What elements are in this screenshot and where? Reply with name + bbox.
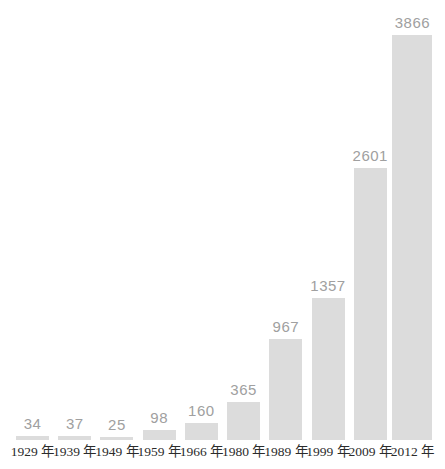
bar-value-label: 2601 bbox=[353, 148, 388, 163]
x-axis-label: 1939 年 bbox=[53, 440, 96, 469]
bar bbox=[227, 402, 260, 440]
bar bbox=[312, 298, 345, 440]
bar-value-label: 98 bbox=[150, 410, 168, 425]
x-axis-label: 1980 年 bbox=[222, 440, 265, 469]
bar-group: 365 1980 年 bbox=[223, 0, 264, 469]
x-axis-label: 1959 年 bbox=[137, 440, 180, 469]
bar-group: 160 1966 年 bbox=[181, 0, 222, 469]
bar-value-label: 25 bbox=[108, 417, 126, 432]
bar-chart: 34 1929 年 37 1939 年 25 1949 年 98 1959 年 … bbox=[0, 0, 445, 469]
bar bbox=[269, 339, 302, 440]
x-axis-label: 1966 年 bbox=[180, 440, 223, 469]
x-axis-label: 1999 年 bbox=[306, 440, 349, 469]
bar-value-label: 3866 bbox=[395, 15, 430, 30]
x-axis-label: 1929 年 bbox=[11, 440, 54, 469]
x-axis-label: 1949 年 bbox=[95, 440, 138, 469]
bar-group: 3866 2012 年 bbox=[392, 0, 433, 469]
bar-group: 25 1949 年 bbox=[96, 0, 137, 469]
bar bbox=[185, 423, 218, 440]
bar bbox=[392, 35, 432, 440]
bar-value-label: 1357 bbox=[310, 278, 345, 293]
bar-value-label: 37 bbox=[66, 416, 84, 431]
bar-value-label: 365 bbox=[230, 382, 257, 397]
bar-group: 98 1959 年 bbox=[139, 0, 180, 469]
bar-value-label: 34 bbox=[24, 416, 42, 431]
bar bbox=[143, 430, 176, 440]
x-axis-label: 2009 年 bbox=[349, 440, 392, 469]
x-axis-label: 2012 年 bbox=[391, 440, 434, 469]
x-axis-label: 1989 年 bbox=[264, 440, 307, 469]
bar bbox=[354, 168, 387, 441]
bar-group: 2601 2009 年 bbox=[350, 0, 391, 469]
bar-group: 1357 1999 年 bbox=[308, 0, 349, 469]
bar-group: 967 1989 年 bbox=[265, 0, 306, 469]
bar-value-label: 967 bbox=[273, 319, 300, 334]
bar-value-label: 160 bbox=[188, 403, 215, 418]
bar-group: 34 1929 年 bbox=[12, 0, 53, 469]
bar-group: 37 1939 年 bbox=[54, 0, 95, 469]
